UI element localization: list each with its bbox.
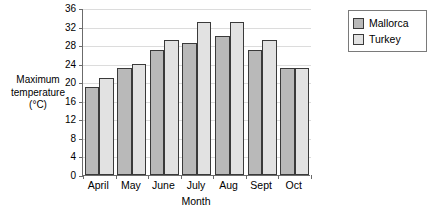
bar-mallorca-aug xyxy=(215,36,230,175)
x-axis-title: Month xyxy=(82,195,310,207)
x-tick-mark xyxy=(213,175,214,179)
legend: Mallorca Turkey xyxy=(348,10,427,52)
x-tick-mark xyxy=(278,175,279,179)
x-tick-label-oct: Oct xyxy=(273,180,315,191)
y-tick-label: 12 xyxy=(52,115,76,125)
y-tick-label: 20 xyxy=(52,78,76,88)
bar-group xyxy=(116,9,149,175)
y-tick-mark xyxy=(79,157,83,158)
bar-group xyxy=(181,9,214,175)
bar-mallorca-july xyxy=(182,43,197,175)
y-tick-mark xyxy=(79,65,83,66)
bar-chart: Maximum temperature (°C) 048121620242832… xyxy=(0,0,431,213)
bar-turkey-july xyxy=(197,22,212,175)
bar-turkey-aug xyxy=(230,22,245,175)
y-tick-label: 0 xyxy=(52,171,76,181)
x-tick-mark xyxy=(181,175,182,179)
legend-label-mallorca: Mallorca xyxy=(369,18,409,29)
bar-group xyxy=(246,9,279,175)
turkey-swatch-icon xyxy=(353,34,364,45)
legend-label-turkey: Turkey xyxy=(369,34,401,45)
bar-turkey-june xyxy=(164,40,179,175)
bar-group xyxy=(148,9,181,175)
legend-entry-mallorca: Mallorca xyxy=(353,15,422,31)
y-tick-mark xyxy=(79,139,83,140)
y-tick-label: 4 xyxy=(52,152,76,162)
legend-entry-turkey: Turkey xyxy=(353,31,422,47)
bar-group xyxy=(213,9,246,175)
x-tick-mark xyxy=(311,175,312,179)
bar-turkey-oct xyxy=(295,68,310,175)
y-tick-mark xyxy=(79,83,83,84)
y-tick-mark xyxy=(79,102,83,103)
bar-group xyxy=(278,9,311,175)
bar-mallorca-june xyxy=(150,50,165,175)
plot-area: 04812162024283236 xyxy=(82,9,310,176)
y-tick-mark xyxy=(79,28,83,29)
y-tick-label: 36 xyxy=(52,4,76,14)
plot-inner xyxy=(83,9,310,175)
mallorca-swatch-icon xyxy=(353,18,364,29)
x-tick-mark xyxy=(83,175,84,179)
x-tick-mark xyxy=(116,175,117,179)
bar-turkey-april xyxy=(99,78,114,175)
y-tick-mark xyxy=(79,120,83,121)
bar-mallorca-april xyxy=(85,87,100,175)
y-tick-mark xyxy=(79,9,83,10)
y-tick-mark xyxy=(79,46,83,47)
x-tick-mark xyxy=(246,175,247,179)
bar-mallorca-sept xyxy=(248,50,263,175)
bar-turkey-sept xyxy=(262,40,277,175)
bar-group xyxy=(83,9,116,175)
x-tick-mark xyxy=(148,175,149,179)
bar-mallorca-oct xyxy=(280,68,295,175)
bar-turkey-may xyxy=(132,64,147,175)
y-tick-label: 8 xyxy=(52,134,76,144)
y-tick-label: 24 xyxy=(52,60,76,70)
bar-mallorca-may xyxy=(117,68,132,175)
y-tick-label: 28 xyxy=(52,41,76,51)
y-tick-label: 16 xyxy=(52,97,76,107)
y-tick-label: 32 xyxy=(52,23,76,33)
y-tick-mark xyxy=(79,176,83,177)
